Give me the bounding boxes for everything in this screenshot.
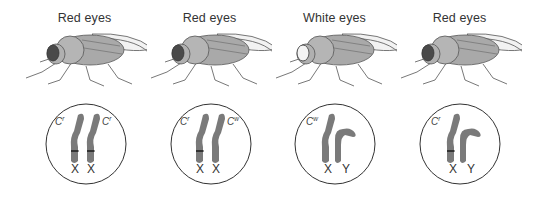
chromosome-type-label: X [193,162,207,176]
fruit-fly-white-eyes-icon [272,28,397,90]
allele-label: Cr [55,115,64,127]
phenotype-label: White eyes [272,11,397,25]
chromosome-type-label: X [209,162,223,176]
panel-3: White eyes Cw X Y [272,0,397,202]
phenotype-label: Red eyes [22,11,147,25]
fruit-fly-red-eyes-icon [22,28,147,90]
allele-label: Cr [180,115,189,127]
chromosome-type-label: X [68,162,82,176]
panel-1: Red eyes Cr Cr X X [22,0,147,202]
fruit-fly-red-eyes-icon [147,28,272,90]
allele-label: Cr [431,115,440,127]
chromosome-type-label: Y [339,162,353,176]
chromosome-type-label: X [446,162,460,176]
fruit-fly-red-eyes-icon [397,28,522,90]
phenotype-label: Red eyes [147,11,272,25]
chromosome-type-label: X [321,162,335,176]
chromosome-type-label: Y [464,162,478,176]
chromosome-type-label: X [84,162,98,176]
allele-label: Cw [227,115,239,127]
panel-2: Red eyes Cr Cw X X [147,0,272,202]
phenotype-label: Red eyes [397,11,522,25]
allele-label: Cr [102,115,111,127]
panel-4: Red eyes Cr X Y [397,0,522,202]
allele-label: Cw [306,115,318,127]
